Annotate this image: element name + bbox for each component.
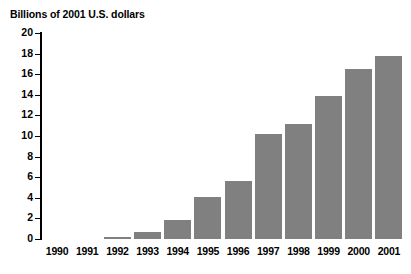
y-axis-tick-label: 20 bbox=[21, 27, 33, 38]
bar bbox=[315, 96, 342, 239]
y-axis-tick-label: 14 bbox=[21, 89, 33, 100]
x-axis-tick-label: 1994 bbox=[163, 245, 193, 257]
x-axis-tick-label: 2000 bbox=[344, 245, 374, 257]
bar bbox=[104, 237, 131, 239]
y-axis-tick-label: 2 bbox=[27, 212, 33, 223]
x-axis-tick-label: 1998 bbox=[283, 245, 313, 257]
bar bbox=[194, 197, 221, 239]
bar bbox=[164, 220, 191, 239]
y-axis-tick-mark bbox=[35, 177, 40, 178]
x-axis-tick-label: 1995 bbox=[193, 245, 223, 257]
y-axis-tick-label: 18 bbox=[21, 48, 33, 59]
y-axis-tick-mark bbox=[35, 95, 40, 96]
y-axis-tick-label: 6 bbox=[27, 171, 33, 182]
x-axis-tick-label: 1990 bbox=[42, 245, 72, 257]
y-axis-tick-mark bbox=[35, 198, 40, 199]
x-axis-tick-label: 1997 bbox=[253, 245, 283, 257]
chart-title: Billions of 2001 U.S. dollars bbox=[10, 8, 145, 20]
y-axis-tick-label: 12 bbox=[21, 109, 33, 120]
y-axis-tick-label: 0 bbox=[27, 233, 33, 244]
y-axis-tick-mark bbox=[35, 54, 40, 55]
x-axis-tick-label: 2001 bbox=[374, 245, 404, 257]
caption-sliver bbox=[14, 269, 344, 274]
y-axis-tick-mark bbox=[35, 218, 40, 219]
y-axis-tick-label: 16 bbox=[21, 68, 33, 79]
bar bbox=[255, 134, 282, 239]
bar bbox=[225, 181, 252, 239]
bar bbox=[345, 69, 372, 239]
y-axis-tick-label: 4 bbox=[27, 192, 33, 203]
y-axis-tick-label: 8 bbox=[27, 151, 33, 162]
bar bbox=[285, 124, 312, 239]
x-axis-tick-label: 1992 bbox=[102, 245, 132, 257]
y-axis-tick-label: 10 bbox=[21, 130, 33, 141]
y-axis-tick-mark bbox=[35, 74, 40, 75]
x-axis-tick-label: 1999 bbox=[314, 245, 344, 257]
bar-chart-figure: Billions of 2001 U.S. dollars 2018161412… bbox=[0, 0, 411, 274]
bar bbox=[375, 56, 402, 239]
x-axis-tick-label: 1993 bbox=[133, 245, 163, 257]
y-axis-tick-mark bbox=[35, 136, 40, 137]
y-axis-tick-mark bbox=[35, 157, 40, 158]
y-axis-tick-mark bbox=[35, 239, 40, 240]
plot-area bbox=[42, 33, 404, 239]
x-axis-tick-label: 1991 bbox=[72, 245, 102, 257]
y-axis-tick-mark bbox=[35, 115, 40, 116]
bar bbox=[134, 232, 161, 239]
x-axis-tick-label: 1996 bbox=[223, 245, 253, 257]
y-axis-tick-mark bbox=[35, 33, 40, 34]
